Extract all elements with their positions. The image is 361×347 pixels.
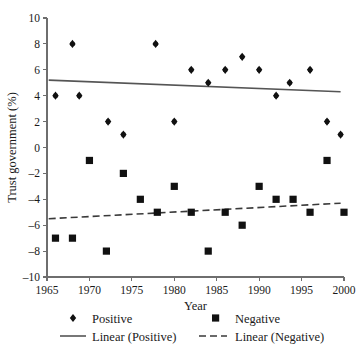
x-tick-label: 1985: [205, 284, 228, 296]
data-point-positive-core: [288, 81, 292, 85]
x-tick-label: 2000: [333, 284, 356, 296]
y-tick-label: 8: [34, 38, 40, 50]
x-tick-label: 1990: [248, 284, 271, 296]
data-point-negative: [52, 235, 59, 242]
y-tick-label: –6: [28, 219, 41, 231]
data-point-positive-core: [274, 94, 278, 98]
data-point-positive-core: [121, 133, 125, 137]
data-point-positive-core: [223, 68, 227, 72]
data-point-positive-core: [257, 68, 261, 72]
data-point-negative: [306, 209, 313, 216]
legend-label-negative: Negative: [235, 312, 281, 326]
y-tick-label: 10: [29, 12, 41, 24]
legend-label-linear-negative: Linear (Negative): [235, 330, 324, 344]
x-tick-label: 1965: [36, 284, 59, 296]
x-tick-label: 1975: [120, 284, 143, 296]
legend-label-linear-positive: Linear (Positive): [92, 330, 176, 344]
data-point-negative: [323, 157, 330, 164]
data-point-negative: [103, 248, 110, 255]
data-point-positive-core: [77, 94, 81, 98]
data-point-positive-core: [339, 133, 343, 137]
data-point-negative: [86, 157, 93, 164]
data-point-negative: [137, 196, 144, 203]
data-point-negative: [154, 209, 161, 216]
x-tick-label: 1980: [163, 284, 186, 296]
data-point-negative: [205, 248, 212, 255]
chart-figure: –10–8–6–4–202468101965197019751980198519…: [0, 0, 361, 347]
x-axis-title: Year: [184, 299, 208, 313]
data-point-positive-core: [308, 68, 312, 72]
data-point-positive-core: [53, 94, 57, 98]
data-point-negative: [289, 196, 296, 203]
y-tick-label: –4: [28, 193, 41, 205]
y-tick-label: 4: [34, 90, 40, 102]
data-point-negative: [222, 209, 229, 216]
data-point-negative: [340, 209, 347, 216]
y-tick-label: 2: [34, 116, 40, 128]
data-points: [52, 40, 348, 255]
chart-legend: PositiveNegativeLinear (Positive)Linear …: [60, 312, 324, 344]
data-point-negative: [256, 183, 263, 190]
data-point-positive-core: [172, 120, 176, 124]
scatter-plot-svg: –10–8–6–4–202468101965197019751980198519…: [0, 0, 361, 347]
data-point-negative: [69, 235, 76, 242]
data-point-positive-core: [206, 81, 210, 85]
data-point-positive-core: [325, 120, 329, 124]
y-axis-title: Trust government (%): [5, 92, 19, 203]
legend-label-positive: Positive: [92, 312, 133, 326]
trendlines: [49, 80, 341, 219]
data-point-positive-core: [189, 68, 193, 72]
y-tick-label: 6: [34, 64, 40, 76]
data-point-negative: [239, 222, 246, 229]
y-tick-label: –2: [28, 167, 41, 179]
y-tick-label: –8: [28, 245, 41, 257]
data-point-positive-core: [70, 42, 74, 46]
y-tick-label: 0: [34, 142, 40, 154]
data-point-negative: [188, 209, 195, 216]
data-point-positive-core: [106, 120, 110, 124]
axes: [43, 18, 344, 281]
x-tick-label: 1970: [78, 284, 101, 296]
legend-marker-negative: [212, 314, 219, 321]
data-point-positive-core: [154, 42, 158, 46]
data-point-positive-core: [240, 55, 244, 59]
data-point-negative: [171, 183, 178, 190]
axis-labels: –10–8–6–4–202468101965197019751980198519…: [5, 12, 356, 313]
y-tick-label: –10: [22, 271, 41, 283]
data-point-negative: [273, 196, 280, 203]
data-point-negative: [120, 170, 127, 177]
trendline-positive: [49, 80, 341, 92]
x-tick-label: 1995: [290, 284, 313, 296]
legend-marker-positive: [70, 314, 76, 322]
